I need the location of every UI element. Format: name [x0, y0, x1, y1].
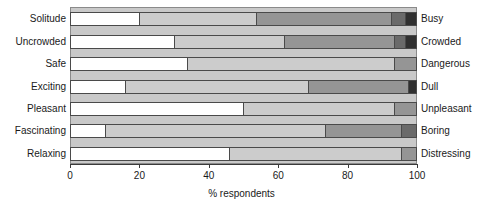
bar-segment — [106, 125, 327, 137]
left-category-label: Uncrowded — [0, 35, 66, 49]
bar-row — [70, 57, 417, 71]
bar-row — [70, 35, 417, 49]
x-axis-tick — [348, 164, 349, 168]
right-category-label: Dangerous — [421, 57, 470, 71]
bar-row — [70, 80, 417, 94]
x-axis-tick-label: 20 — [134, 170, 145, 181]
bar-segment — [71, 81, 126, 93]
bar-row — [70, 12, 417, 26]
x-axis-title: % respondents — [0, 188, 483, 199]
left-category-label: Exciting — [0, 80, 66, 94]
bar-segment — [326, 125, 402, 137]
bar-segment — [71, 148, 230, 160]
right-category-axis: BusyCrowdedDangerousDullUnpleasantBoring… — [421, 7, 483, 164]
left-category-label: Relaxing — [0, 147, 66, 161]
bar-segment — [188, 58, 395, 70]
left-category-label: Solitude — [0, 12, 66, 26]
x-axis-tick — [278, 164, 279, 168]
bar-row — [70, 102, 417, 116]
left-category-label: Pleasant — [0, 102, 66, 116]
bar-segment — [409, 81, 416, 93]
bar-segment — [395, 58, 416, 70]
bar-segment — [406, 36, 416, 48]
bar-row — [70, 147, 417, 161]
bar-segment — [392, 13, 406, 25]
bar-row — [70, 124, 417, 138]
right-category-label: Busy — [421, 12, 443, 26]
left-category-label: Safe — [0, 57, 66, 71]
x-axis-tick-label: 80 — [342, 170, 353, 181]
bar-segment — [71, 13, 140, 25]
bar-segment — [71, 125, 106, 137]
x-axis-tick — [417, 164, 418, 168]
bar-segment — [71, 36, 175, 48]
x-axis-tick-label: 60 — [273, 170, 284, 181]
right-category-label: Distressing — [421, 147, 470, 161]
x-axis-tick-label: 0 — [67, 170, 73, 181]
bar-segment — [71, 103, 244, 115]
bar-segment — [309, 81, 409, 93]
bar-segment — [402, 148, 416, 160]
bar-segment — [257, 13, 392, 25]
bar-segment — [71, 58, 188, 70]
left-category-label: Fascinating — [0, 124, 66, 138]
bar-segment — [285, 36, 395, 48]
left-category-axis: SolitudeUncrowdedSafeExcitingPleasantFas… — [0, 7, 66, 164]
bar-segment — [402, 125, 416, 137]
bar-segment — [395, 36, 405, 48]
bar-segment — [126, 81, 309, 93]
x-axis-tick-label: 40 — [203, 170, 214, 181]
bar-segment — [140, 13, 257, 25]
x-axis-tick — [209, 164, 210, 168]
x-axis-tick — [70, 164, 71, 168]
x-axis-tick-label: 100 — [409, 170, 426, 181]
right-category-label: Boring — [421, 124, 450, 138]
bars-layer — [70, 7, 417, 164]
bar-segment — [230, 148, 403, 160]
x-axis-tick — [139, 164, 140, 168]
right-category-label: Unpleasant — [421, 102, 472, 116]
bar-segment — [175, 36, 285, 48]
bar-segment — [395, 103, 416, 115]
x-axis-line — [70, 164, 417, 165]
right-category-label: Crowded — [421, 35, 461, 49]
stacked-bar-chart: SolitudeUncrowdedSafeExcitingPleasantFas… — [0, 0, 483, 210]
bar-segment — [406, 13, 416, 25]
right-category-label: Dull — [421, 80, 438, 94]
bar-segment — [244, 103, 396, 115]
